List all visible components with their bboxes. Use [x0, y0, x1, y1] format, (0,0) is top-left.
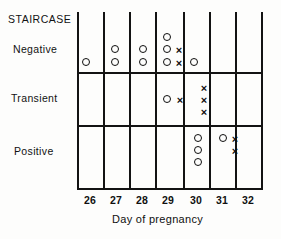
cross-marker	[200, 83, 208, 91]
grid-vline-2	[129, 12, 131, 188]
x-tick-label-26: 26	[77, 195, 103, 206]
cross-marker	[231, 146, 239, 154]
grid-vline-5	[209, 12, 211, 188]
circle-marker	[194, 134, 202, 142]
circle-marker	[190, 58, 198, 66]
circle-marker	[139, 58, 147, 66]
circle-marker	[163, 33, 171, 41]
grid-vline-1	[103, 12, 105, 188]
x-tick-label-29: 29	[155, 195, 181, 206]
cross-marker	[175, 58, 183, 66]
cross-marker	[200, 107, 208, 115]
grid-vline-3	[155, 12, 157, 188]
cross-marker	[176, 95, 184, 103]
row-label-transient: Transient	[11, 93, 58, 104]
x-tick-label-28: 28	[129, 195, 155, 206]
cross-marker	[200, 95, 208, 103]
circle-marker	[82, 58, 90, 66]
row-divider-negative-transient	[77, 72, 263, 74]
x-tick-label-27: 27	[103, 195, 129, 206]
circle-marker	[219, 134, 227, 142]
row-label-positive: Positive	[14, 146, 54, 157]
figure-title: STAIRCASE	[8, 14, 71, 25]
x-tick-label-30: 30	[183, 195, 209, 206]
grid-vline-6	[235, 12, 237, 188]
circle-marker	[111, 58, 119, 66]
cross-marker	[175, 45, 183, 53]
circle-marker	[163, 58, 171, 66]
row-divider-transient-positive	[77, 125, 263, 127]
circle-marker	[194, 158, 202, 166]
circle-marker	[163, 95, 171, 103]
grid-vline-0	[77, 12, 79, 188]
circle-marker	[163, 45, 171, 53]
circle-marker	[194, 146, 202, 154]
circle-marker	[111, 45, 119, 53]
row-label-negative: Negative	[13, 44, 57, 55]
cross-marker	[231, 134, 239, 142]
x-axis-title: Day of pregnancy	[112, 214, 203, 225]
staircase-scatter-figure: STAIRCASE Negative Transient Positive 26…	[0, 0, 281, 239]
x-tick-label-31: 31	[209, 195, 235, 206]
x-axis-line	[77, 188, 263, 190]
circle-marker	[139, 45, 147, 53]
x-tick-label-32: 32	[235, 195, 261, 206]
grid-vline-7	[261, 12, 263, 188]
